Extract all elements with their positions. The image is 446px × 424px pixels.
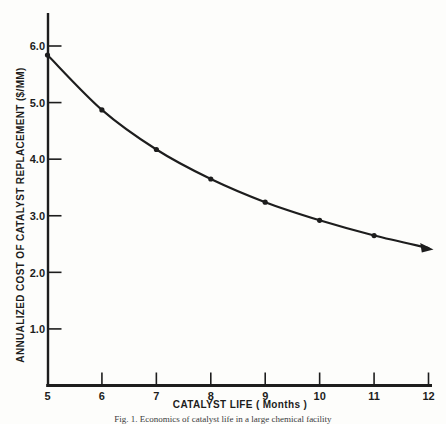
data-point-marker <box>317 218 322 223</box>
y-tick-label: 1.0 <box>30 323 45 335</box>
y-axis-ticks: 1.02.03.04.05.06.0 <box>30 40 62 335</box>
data-point-marker <box>208 176 213 181</box>
y-tick-label: 3.0 <box>30 210 45 222</box>
y-tick-label: 5.0 <box>30 97 45 109</box>
data-point-marker <box>263 200 268 205</box>
catalyst-cost-line-chart: 1.02.03.04.05.06.0 56789101112 CATALYST … <box>0 0 446 424</box>
data-point-marker <box>154 147 159 152</box>
figure-caption: Fig. 1. Economics of catalyst life in a … <box>0 414 446 424</box>
x-tick-label: 11 <box>368 390 380 402</box>
x-axis-ticks: 56789101112 <box>44 373 434 402</box>
x-tick-label: 12 <box>422 390 434 402</box>
data-point-marker <box>45 53 50 58</box>
y-tick-label: 2.0 <box>30 267 45 279</box>
curve-end-arrowhead <box>420 243 433 253</box>
x-axis-label: CATALYST LIFE ( Months ) <box>173 399 307 410</box>
y-axis-label: ANNUALIZED COST OF CATALYST REPLACEMENT … <box>15 67 26 362</box>
x-tick-label: 5 <box>44 390 50 402</box>
x-tick-label: 6 <box>99 390 105 402</box>
data-point-marker <box>99 107 104 112</box>
y-tick-label: 6.0 <box>30 40 45 52</box>
cost-curve <box>48 55 429 248</box>
x-tick-label: 7 <box>153 390 159 402</box>
data-point-marker <box>372 233 377 238</box>
cost-curve-series <box>45 53 434 253</box>
y-tick-label: 4.0 <box>30 153 45 165</box>
figure-1-catalyst-economics: 1.02.03.04.05.06.0 56789101112 CATALYST … <box>0 0 446 424</box>
x-tick-label: 10 <box>314 390 326 402</box>
